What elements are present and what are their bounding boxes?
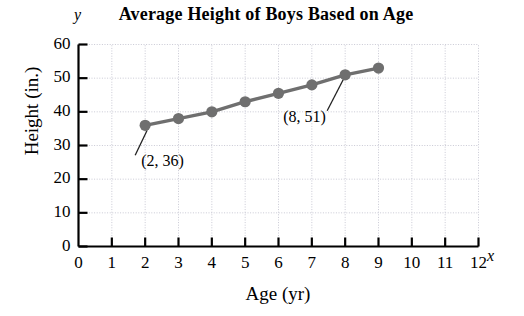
- x-tick-label: 2: [131, 253, 159, 273]
- y-tick-label: 60: [37, 34, 71, 54]
- y-tick-label: 40: [37, 101, 71, 121]
- data-point-marker: [206, 106, 217, 117]
- data-series: [140, 62, 385, 130]
- x-tick-label: 0: [65, 253, 93, 273]
- data-point-marker: [173, 113, 184, 124]
- data-point-marker: [340, 69, 351, 80]
- data-point-marker: [240, 96, 251, 107]
- x-tick-label: 9: [365, 253, 393, 273]
- x-tick-label: 5: [231, 253, 259, 273]
- x-tick-label: 1: [98, 253, 126, 273]
- y-tick-label: 30: [37, 135, 71, 155]
- data-point-marker: [373, 62, 384, 73]
- data-point-marker: [140, 120, 151, 131]
- x-tick-label: 7: [298, 253, 326, 273]
- data-point-marker: [273, 88, 284, 99]
- data-point-marker: [306, 79, 317, 90]
- y-tick-label: 50: [37, 67, 71, 87]
- x-tick-label: 10: [398, 253, 426, 273]
- y-tick-label: 10: [37, 202, 71, 222]
- x-tick-label: 8: [331, 253, 359, 273]
- annotation-leader-line: [327, 80, 343, 111]
- point-annotation-label: (8, 51): [283, 108, 326, 126]
- x-tick-label: 12: [465, 253, 493, 273]
- x-tick-label: 6: [265, 253, 293, 273]
- x-tick-label: 3: [165, 253, 193, 273]
- point-annotation-label: (2, 36): [141, 152, 184, 170]
- grid-lines: [79, 45, 479, 247]
- x-tick-label: 4: [198, 253, 226, 273]
- x-tick-label: 11: [431, 253, 459, 273]
- chart-figure: Average Height of Boys Based on Age y x …: [0, 0, 524, 316]
- y-tick-label: 20: [37, 168, 71, 188]
